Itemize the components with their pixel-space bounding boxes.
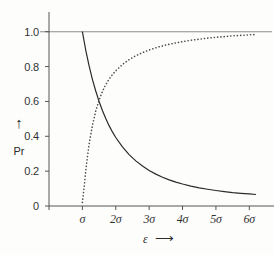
x-tick-label: 2σ xyxy=(103,213,129,225)
y-axis-arrow-icon: ↑ xyxy=(12,118,26,128)
x-tick-label: 3σ xyxy=(136,213,162,225)
series-decaying-probability xyxy=(82,32,256,195)
x-tick-label: 5σ xyxy=(203,213,229,225)
y-tick-label: 0 xyxy=(13,201,39,212)
y-tick-label: 0.6 xyxy=(13,96,39,107)
y-axis-label: Pr xyxy=(10,146,28,157)
y-tick-label: 1.0 xyxy=(13,27,39,38)
chart-figure: ↑ Pr ε ⟶ 00.20.40.60.81.0σ2σ3σ4σ5σ6σ xyxy=(0,0,274,255)
x-tick-label: 4σ xyxy=(170,213,196,225)
x-axis-title-group: ε ⟶ xyxy=(143,232,173,245)
x-axis-label: ε xyxy=(143,232,148,246)
y-tick-label: 0.2 xyxy=(13,166,39,177)
x-tick-label: σ xyxy=(69,213,95,225)
y-tick-label: 0.4 xyxy=(13,131,39,142)
x-tick-label: 6σ xyxy=(236,213,262,225)
series-rising-probability xyxy=(82,35,256,203)
y-tick-label: 0.8 xyxy=(13,62,39,73)
x-axis-arrow-icon: ⟶ xyxy=(155,232,173,245)
